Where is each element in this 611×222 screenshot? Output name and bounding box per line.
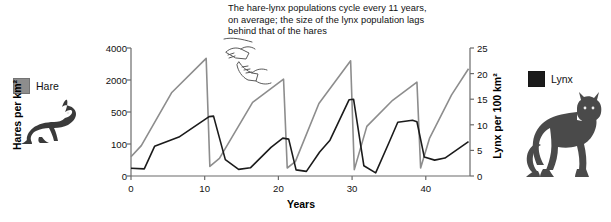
plot-area [0,0,611,222]
y-left-tick-4000: 4000 [94,43,127,54]
x-tick-40: 40 [420,183,431,194]
axis-lines [131,48,470,176]
x-tick-10: 10 [199,183,210,194]
x-tick-30: 30 [347,183,358,194]
y-left-tick-500: 500 [94,107,127,118]
y-left-tick-2000: 2000 [94,75,127,86]
y-right-tick-20: 20 [477,68,488,79]
series-line-hare [131,58,469,169]
y-right-tick-5: 5 [477,145,482,156]
y-right-tick-10: 10 [477,119,488,130]
y-right-tick-25: 25 [477,43,488,54]
x-tick-20: 20 [273,183,284,194]
x-axis-ticks [131,176,426,180]
x-tick-0: 0 [128,183,133,194]
y-left-tick-0: 0 [94,171,127,182]
y-right-tick-0: 0 [477,171,482,182]
chart-page: The hare-lynx populations cycle every 11… [0,0,611,222]
y-left-tick-100: 100 [94,139,127,150]
y-right-tick-15: 15 [477,94,488,105]
